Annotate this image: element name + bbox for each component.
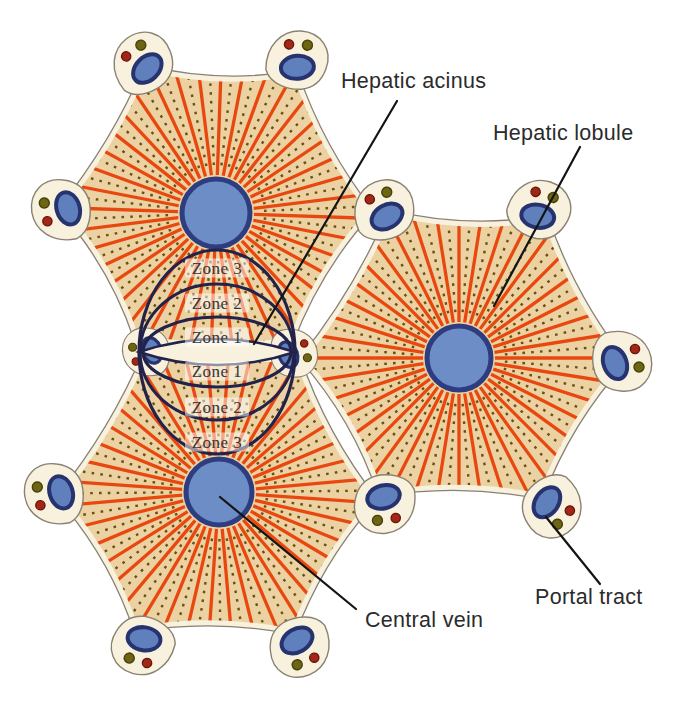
hepatic-artery-dot <box>630 344 639 353</box>
zone1-upper-label: Zone 1 <box>192 328 243 347</box>
hepatic-lobule-acinus-diagram: Zone 3 Zone 2 Zone 1 Zone 1 Zone 2 Zone … <box>0 0 674 707</box>
hepatic-artery-dot <box>43 216 53 226</box>
hepatic-artery-dot <box>36 500 46 510</box>
central-vein-label: Central vein <box>365 608 483 632</box>
hepatic-lobule-label: Hepatic lobule <box>493 121 633 145</box>
hepatic-acinus-label: Hepatic acinus <box>341 69 486 93</box>
hepatic-artery-dot <box>391 513 401 523</box>
hepatic-artery-dot <box>364 194 375 205</box>
zone2-upper-label: Zone 2 <box>192 294 243 313</box>
bile-duct-dot <box>372 515 383 526</box>
portal-tract <box>593 331 652 391</box>
hepatic-artery-dot <box>309 652 320 663</box>
zone2-lower-label: Zone 2 <box>192 398 243 417</box>
figure-canvas: Zone 3 Zone 2 Zone 1 Zone 1 Zone 2 Zone … <box>0 0 674 707</box>
bile-duct-dot <box>303 354 311 362</box>
bile-duct-dot <box>39 198 50 209</box>
portal-tract-label: Portal tract <box>535 585 643 609</box>
zone1-lower-label: Zone 1 <box>192 362 243 381</box>
bile-duct-dot <box>129 343 137 351</box>
bile-duct-dot <box>634 362 644 372</box>
hepatic-artery-dot <box>301 340 308 347</box>
central-vein <box>427 326 491 390</box>
portal-vein <box>280 54 315 80</box>
central-vein <box>182 179 250 247</box>
zone3-upper-label: Zone 3 <box>192 259 243 278</box>
zone3-lower-label: Zone 3 <box>192 433 243 452</box>
bile-duct-dot <box>32 482 43 493</box>
